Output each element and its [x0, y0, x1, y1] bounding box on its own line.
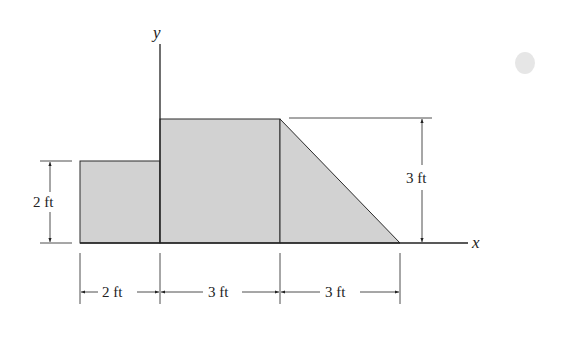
left-height-dimension: 2 ft	[33, 161, 72, 243]
right-triangle	[280, 119, 400, 243]
smudge-mark	[515, 52, 535, 74]
shaded-area	[80, 119, 400, 243]
bottom-dim-label-3: 3 ft	[325, 284, 346, 300]
composite-area-figure: y x 2 ft 3 ft 2 ft 3 ft 3 ft	[0, 0, 574, 339]
middle-rectangle	[160, 119, 280, 243]
bottom-dim-label-1: 2 ft	[102, 284, 123, 300]
right-height-label: 3 ft	[406, 170, 427, 186]
left-rectangle	[80, 161, 160, 243]
y-axis-label: y	[151, 23, 161, 42]
bottom-dimensions: 2 ft 3 ft 3 ft	[80, 253, 400, 304]
bottom-dim-label-2: 3 ft	[208, 284, 229, 300]
left-height-label: 2 ft	[33, 194, 54, 210]
x-axis-label: x	[471, 233, 480, 252]
